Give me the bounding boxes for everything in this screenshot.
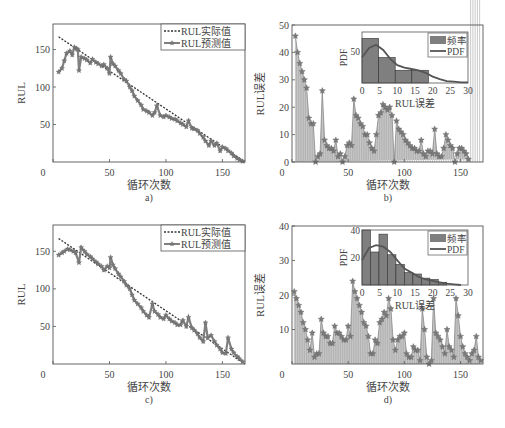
y-tick-label: 100 xyxy=(35,283,50,294)
inset-x-tick-label: 10 xyxy=(393,288,403,298)
star-marker-icon xyxy=(150,301,155,306)
legend-label-actual: RUL实际值 xyxy=(181,25,231,37)
histogram-bar xyxy=(404,273,412,285)
y-tick-label: 50 xyxy=(279,20,289,31)
inset-b: 05101520253050PDFRUL误差频率PDF xyxy=(339,32,473,109)
xlabel-b: 循环次数 xyxy=(348,176,428,192)
inset-x-tick-label: 0 xyxy=(360,86,365,96)
y-axis-label: RUL误差 xyxy=(253,72,266,116)
inset-x-tick-label: 30 xyxy=(463,288,473,298)
inset-y-label: PDF xyxy=(339,249,349,266)
star-marker-icon xyxy=(345,323,351,329)
x-tick-label: 0 xyxy=(41,167,46,178)
inset-x-label: RUL误差 xyxy=(395,299,435,311)
x-tick-label: 0 xyxy=(280,369,285,380)
y-tick-label: 150 xyxy=(35,44,50,55)
x-tick-label: 150 xyxy=(215,369,230,380)
legend: RUL实际值RUL预测值 xyxy=(161,225,245,251)
star-marker-icon xyxy=(108,255,113,260)
histogram-bar xyxy=(379,234,387,285)
xlabel-d: 循环次数 xyxy=(348,378,428,394)
inset-x-label: RUL误差 xyxy=(395,97,435,109)
inset-x-tick-label: 15 xyxy=(410,288,420,298)
legend-bar-swatch xyxy=(430,234,446,242)
inset-x-tick-label: 25 xyxy=(446,86,456,96)
chart-a: 05010015050100150RULRUL实际值RUL预测值 xyxy=(15,24,245,178)
star-marker-icon xyxy=(386,295,392,301)
histogram-bar xyxy=(395,70,412,83)
y-tick-label: 40 xyxy=(279,47,289,58)
inset-x-tick-label: 20 xyxy=(428,86,438,96)
star-marker-icon xyxy=(309,330,315,336)
star-marker-icon xyxy=(186,315,191,320)
y-tick-label: 20 xyxy=(279,290,289,301)
legend-label-actual: RUL实际值 xyxy=(181,226,231,238)
figure: 05010015050100150RULRUL实际值RUL预测值05010015… xyxy=(0,0,505,428)
histogram-bar xyxy=(387,255,395,285)
star-marker-icon xyxy=(292,33,298,39)
inset-y-tick-label: 50 xyxy=(351,47,361,57)
inset-x-tick-label: 25 xyxy=(446,288,456,298)
inset-y-tick-label: 40 xyxy=(351,226,361,236)
y-axis-label: RUL xyxy=(15,283,27,305)
y-tick-label: 50 xyxy=(40,119,50,130)
x-tick-label: 150 xyxy=(453,167,468,178)
inset-legend-pdf: PDF xyxy=(447,245,464,255)
inset-legend-freq: 频率 xyxy=(447,35,467,46)
caption-c: c) xyxy=(129,394,169,405)
legend-label-predicted: RUL预测值 xyxy=(181,37,231,49)
inset-x-tick-label: 15 xyxy=(410,86,420,96)
inset-x-tick-label: 10 xyxy=(393,86,403,96)
inset-x-tick-label: 30 xyxy=(463,86,473,96)
x-tick-label: 0 xyxy=(280,167,285,178)
star-marker-icon xyxy=(77,68,82,73)
y-axis-label: RUL xyxy=(15,82,27,104)
inset-legend-pdf: PDF xyxy=(447,47,464,57)
y-tick-label: 10 xyxy=(279,324,289,335)
caption-d: d) xyxy=(368,394,408,405)
legend-label-predicted: RUL预测值 xyxy=(181,238,231,250)
legend: RUL实际值RUL预测值 xyxy=(161,24,245,50)
y-tick-label: 150 xyxy=(35,246,50,257)
y-tick-label: 40 xyxy=(279,221,289,232)
inset-x-tick-label: 0 xyxy=(360,288,365,298)
chart-b: 05010015001020304050RUL误差05101520253050P… xyxy=(253,0,483,178)
y-axis-label: RUL误差 xyxy=(253,273,266,317)
chart-c: 05010015050100150RULRUL实际值RUL预测值 xyxy=(15,225,245,380)
x-tick-label: 0 xyxy=(41,369,46,380)
inset-x-tick-label: 20 xyxy=(428,288,438,298)
figure-svg: 05010015050100150RULRUL实际值RUL预测值05010015… xyxy=(0,0,505,428)
y-tick-label: 20 xyxy=(279,102,289,113)
star-marker-icon xyxy=(319,88,325,94)
chart-d: 05010015010203040RUL误差0510152025302040PD… xyxy=(253,221,484,381)
xlabel-c: 循环次数 xyxy=(109,378,189,394)
x-tick-label: 150 xyxy=(215,167,230,178)
inset-legend-freq: 频率 xyxy=(447,233,467,244)
inset-x-tick-label: 5 xyxy=(377,86,382,96)
inset-y-tick-label: 20 xyxy=(351,253,361,263)
inset-y-label: PDF xyxy=(339,49,349,66)
caption-a: a) xyxy=(129,192,169,203)
caption-b: b) xyxy=(368,192,408,203)
star-marker-icon xyxy=(108,54,113,59)
histogram-bar xyxy=(370,252,378,285)
xlabel-a: 循环次数 xyxy=(109,176,189,192)
star-marker-icon xyxy=(432,126,438,132)
star-marker-icon xyxy=(226,335,231,340)
legend-bar-swatch xyxy=(430,36,446,44)
y-tick-label: 50 xyxy=(40,321,50,332)
y-tick-label: 100 xyxy=(35,82,50,93)
y-tick-label: 10 xyxy=(279,129,289,140)
x-tick-label: 150 xyxy=(453,369,468,380)
star-marker-icon xyxy=(318,316,324,322)
y-tick-label: 0 xyxy=(284,157,289,168)
y-tick-label: 30 xyxy=(279,74,289,85)
inset-x-tick-label: 5 xyxy=(377,288,382,298)
y-tick-label: 30 xyxy=(279,255,289,266)
